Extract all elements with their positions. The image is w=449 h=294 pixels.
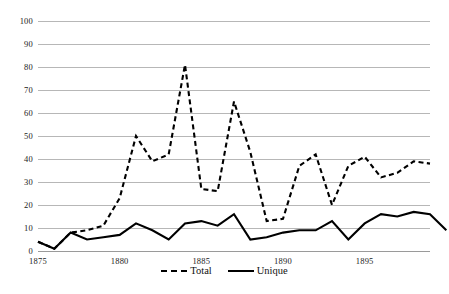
- legend-entry-total[interactable]: Total: [161, 266, 211, 277]
- gridline-0: [38, 251, 430, 252]
- series-line-total: [38, 65, 430, 249]
- x-tick-label-1875: 1875: [29, 257, 47, 266]
- legend-entry-unique[interactable]: Unique: [228, 266, 288, 277]
- dashed-line-swatch-icon: [161, 270, 187, 272]
- y-tick-label-20: 20: [24, 201, 33, 210]
- y-tick-label-90: 90: [24, 40, 33, 49]
- series-line-unique: [38, 212, 446, 249]
- y-tick-label-60: 60: [24, 109, 33, 118]
- y-tick-label-30: 30: [24, 178, 33, 187]
- y-tick-label-50: 50: [24, 132, 33, 141]
- chart-legend: Total Unique: [0, 266, 449, 277]
- line-chart: 0102030405060708090100 18751880188518901…: [0, 0, 449, 294]
- solid-line-swatch-icon: [228, 270, 254, 272]
- x-tick-label-1895: 1895: [356, 257, 374, 266]
- series-layer: [38, 21, 430, 251]
- y-tick-label-10: 10: [24, 224, 33, 233]
- y-tick-label-100: 100: [20, 17, 33, 26]
- y-tick-label-70: 70: [24, 86, 33, 95]
- plot-area: 0102030405060708090100 18751880188518901…: [38, 21, 430, 251]
- legend-label-total: Total: [190, 266, 211, 277]
- y-tick-label-0: 0: [29, 247, 33, 256]
- y-tick-label-80: 80: [24, 63, 33, 72]
- x-tick-label-1880: 1880: [111, 257, 129, 266]
- legend-label-unique: Unique: [257, 266, 288, 277]
- y-tick-label-40: 40: [24, 155, 33, 164]
